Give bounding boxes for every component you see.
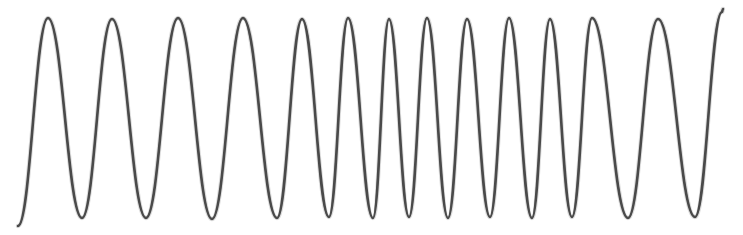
waveform-canvas (0, 0, 743, 235)
waveform-figure (0, 0, 743, 235)
figure-background (0, 0, 743, 235)
